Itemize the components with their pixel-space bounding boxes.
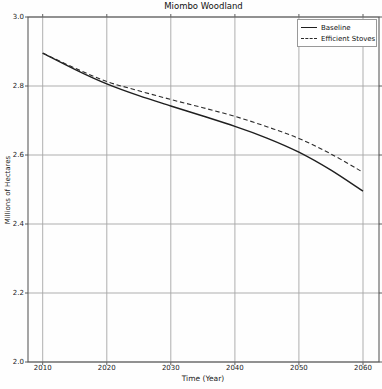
x-tick-label: 2030 (162, 364, 180, 372)
series-line-efficient-stoves (43, 53, 363, 172)
chart-figure: Miombo Woodland Millions of Hectares Tim… (0, 0, 382, 389)
y-tick-label: 2.8 (0, 82, 24, 90)
y-tick-label: 2.4 (0, 220, 24, 228)
series-line-baseline (43, 53, 363, 191)
legend-item-efficient-stoves: Efficient Stoves (301, 33, 373, 44)
legend-label-baseline: Baseline (321, 24, 351, 32)
y-tick-label: 2.2 (0, 289, 24, 297)
y-tick-label: 2.0 (0, 358, 24, 366)
x-tick-label: 2050 (290, 364, 308, 372)
y-axis-label: Millions of Hectares (4, 156, 12, 225)
y-tick-label: 3.0 (0, 13, 24, 21)
x-axis-label: Time (Year) (182, 374, 224, 383)
dashed-line-swatch-icon (301, 38, 317, 39)
x-tick-label: 2020 (98, 364, 116, 372)
plot-area (0, 0, 382, 389)
x-tick-label: 2040 (226, 364, 244, 372)
x-tick-label: 2060 (354, 364, 372, 372)
y-tick-label: 2.6 (0, 151, 24, 159)
legend-item-baseline: Baseline (301, 22, 373, 33)
legend-label-efficient-stoves: Efficient Stoves (321, 35, 375, 43)
legend: Baseline Efficient Stoves (297, 19, 377, 47)
solid-line-swatch-icon (301, 27, 317, 28)
x-tick-label: 2010 (34, 364, 52, 372)
